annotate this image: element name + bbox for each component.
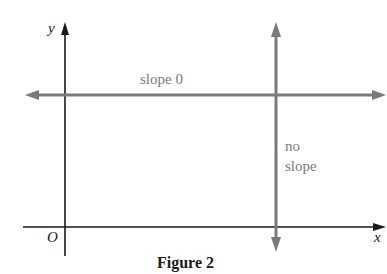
no-slope-label-line1: no bbox=[285, 136, 300, 156]
y-axis bbox=[61, 22, 69, 256]
no-slope-label-line2: slope bbox=[285, 156, 317, 176]
y-axis-label: y bbox=[48, 20, 55, 37]
vertical-line-no-slope bbox=[271, 22, 281, 252]
origin-label: O bbox=[47, 229, 58, 246]
figure-caption: Figure 2 bbox=[157, 254, 214, 272]
right-arrow-icon bbox=[372, 90, 386, 100]
down-arrow-icon bbox=[271, 237, 281, 252]
y-axis-arrow-icon bbox=[61, 22, 69, 35]
left-arrow-icon bbox=[25, 90, 39, 100]
horizontal-line-slope-zero bbox=[25, 90, 386, 100]
slope-zero-label: slope 0 bbox=[140, 71, 183, 88]
coordinate-plane bbox=[0, 0, 387, 274]
x-axis-label: x bbox=[374, 229, 381, 246]
up-arrow-icon bbox=[271, 22, 281, 37]
x-axis bbox=[23, 223, 386, 231]
